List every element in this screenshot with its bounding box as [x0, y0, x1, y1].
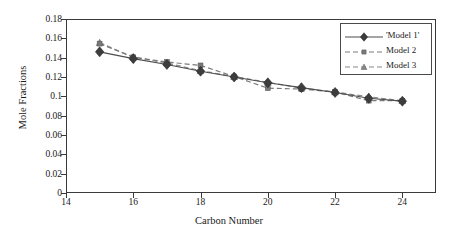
legend-symbol [344, 61, 384, 73]
legend-sample [344, 44, 384, 56]
x-tick-mark [335, 193, 336, 198]
y-tick-label: 0.02 [16, 169, 62, 179]
legend-label: 'Model 1' [384, 29, 420, 41]
legend-label: Model 2 [384, 44, 416, 56]
legend: 'Model 1'Model 2Model 3 [340, 23, 432, 75]
diamond-marker [264, 78, 272, 88]
chart-figure: 00.020.040.060.080.10.120.140.160.18 Mol… [0, 0, 458, 239]
legend-symbol [344, 46, 384, 58]
diamond-marker [331, 87, 339, 97]
diamond-marker [129, 54, 137, 64]
legend-symbol [344, 31, 384, 43]
x-tick-mark [402, 193, 403, 198]
x-axis-title: Carbon Number [0, 215, 458, 226]
y-tick-mark [61, 38, 66, 39]
x-tick-label: 16 [118, 197, 148, 208]
legend-item: Model 3 [341, 57, 431, 72]
y-axis-title: Mole Fractions [17, 38, 28, 158]
legend-sample [344, 59, 384, 71]
y-tick-mark [61, 116, 66, 117]
diamond-marker [95, 47, 103, 57]
diamond-marker [163, 59, 171, 69]
square-marker [362, 49, 366, 53]
legend-sample [344, 29, 384, 41]
square-marker [97, 41, 102, 46]
y-tick-mark [61, 174, 66, 175]
x-tick-mark [201, 193, 202, 198]
x-tick-mark [133, 193, 134, 198]
diamond-marker [196, 66, 204, 76]
y-tick-mark [61, 96, 66, 97]
x-tick-label: 22 [320, 197, 350, 208]
diamond-marker [360, 32, 367, 41]
x-tick-mark [66, 193, 67, 198]
x-tick-label: 18 [186, 197, 216, 208]
diamond-marker [365, 93, 373, 103]
legend-item: 'Model 1' [341, 27, 431, 42]
y-tick-label: 0.18 [16, 14, 62, 24]
x-tick-mark [268, 193, 269, 198]
y-tick-mark [61, 58, 66, 59]
x-tick-label: 20 [253, 197, 283, 208]
y-tick-mark [61, 19, 66, 20]
y-tick-mark [61, 77, 66, 78]
legend-label: Model 3 [384, 59, 416, 71]
y-tick-mark [61, 135, 66, 136]
diamond-marker [230, 72, 238, 82]
legend-item: Model 2 [341, 42, 431, 57]
x-tick-label: 14 [51, 197, 81, 208]
y-tick-mark [61, 154, 66, 155]
diamond-marker [398, 96, 406, 106]
x-tick-label: 24 [387, 197, 417, 208]
y-tick-mark [61, 193, 66, 194]
